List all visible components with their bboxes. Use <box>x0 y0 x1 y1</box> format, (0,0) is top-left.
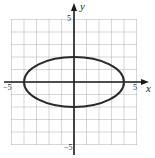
y-min-tick-label: −5 <box>64 143 73 152</box>
y-axis-label: y <box>79 0 85 12</box>
x-axis-label: x <box>145 82 151 94</box>
y-axis-arrow-icon <box>71 3 77 11</box>
y-max-tick-label: 5 <box>67 14 71 23</box>
x-max-tick-label: 5 <box>133 83 137 92</box>
x-min-tick-label: −5 <box>3 83 12 92</box>
ellipse-graph: y x −5 5 5 −5 <box>0 0 155 158</box>
